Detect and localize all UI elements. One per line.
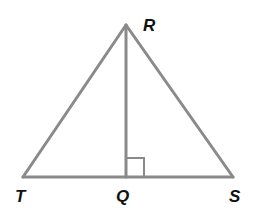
label-R: R — [143, 16, 156, 35]
segment-RT — [23, 25, 126, 177]
triangle-diagram: R T Q S — [0, 0, 256, 213]
label-T: T — [15, 187, 27, 206]
segment-RS — [126, 25, 233, 177]
label-Q: Q — [116, 187, 129, 206]
label-S: S — [229, 187, 241, 206]
right-angle-marker — [126, 158, 144, 177]
